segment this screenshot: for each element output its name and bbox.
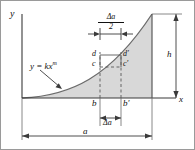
shaded-area-region	[22, 14, 152, 98]
curve-equation-label: y = kxm	[30, 60, 57, 71]
point-label-d-prime: d′	[123, 50, 129, 58]
y-axis-label: y	[10, 9, 14, 19]
point-label-c-prime: c′	[123, 60, 128, 68]
curve-equation-base: y = kx	[30, 61, 53, 71]
dimension-half-step-label: Δa 2	[98, 13, 124, 31]
point-label-b: b	[92, 99, 97, 108]
half-step-denominator: 2	[98, 23, 124, 31]
curve-equation-exponent: m	[53, 60, 57, 66]
figure-area-under-curve: y x y = kxm Δa 2 Δa a h b b′ c d c′ d′	[0, 0, 195, 150]
curve-callout-leader	[40, 70, 62, 89]
point-label-b-prime: b′	[123, 99, 129, 108]
point-label-d: d	[92, 50, 96, 58]
dimension-total-height-label: h	[167, 50, 172, 59]
point-label-c: c	[92, 60, 96, 68]
dimension-total-width-label: a	[83, 127, 88, 136]
half-step-numerator: Δa	[98, 13, 124, 21]
x-axis-label: x	[179, 95, 183, 104]
dimension-step-label: Δa	[103, 119, 112, 127]
